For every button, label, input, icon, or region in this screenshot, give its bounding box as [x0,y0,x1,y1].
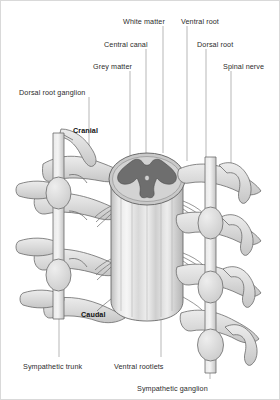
label-central-canal: Central canal [104,41,148,48]
spinal-cord-illustration [1,1,280,400]
label-ventral-root: Ventral root [181,18,219,25]
spinal-cord-cross-section [109,153,185,205]
label-caudal: Caudal [81,311,106,318]
left-sympathetic-ganglion-1 [46,177,71,209]
label-white-matter: White matter [123,18,165,25]
left-spinal-nerves-group [16,129,125,323]
left-sympathetic-ganglion-2 [46,259,71,291]
label-dorsal-root: Dorsal root [197,41,233,48]
label-sympathetic-ganglion: Sympathetic ganglion [137,385,208,392]
right-nerve-arc-4 [225,325,257,366]
label-spinal-nerve: Spinal nerve [223,63,264,70]
label-cranial: Cranial [73,127,98,134]
diagram-frame: Dorsal root ganglionGrey matterCentral c… [0,0,280,400]
label-dorsal-root-ganglion: Dorsal root ganglion [19,89,85,96]
right-sympathetic-ganglion-3 [198,329,224,361]
central-canal-opening [145,175,150,181]
label-ventral-rootlets: Ventral rootlets [114,363,164,370]
right-sympathetic-ganglion-1 [198,207,223,239]
right-sympathetic-ganglion-2 [198,271,223,303]
label-grey-matter: Grey matter [93,63,132,70]
label-sympathetic-trunk: Sympathetic trunk [23,363,82,370]
